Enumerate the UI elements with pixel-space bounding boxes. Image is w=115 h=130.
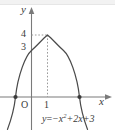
root-point-right bbox=[77, 95, 81, 99]
coordinate-plot bbox=[0, 0, 115, 130]
parabola-figure: y x O 1 3 4 y=−x2+2x+3 bbox=[0, 0, 115, 130]
y-axis-label: y bbox=[21, 4, 26, 15]
equation-label: y=−x2+2x+3 bbox=[42, 114, 94, 124]
y-tick-label-4: 4 bbox=[21, 29, 26, 39]
equation-neg-x-term: −x bbox=[52, 113, 63, 124]
root-point-left bbox=[13, 95, 17, 99]
x-tick-label-1: 1 bbox=[44, 100, 49, 110]
equation-remaining-terms: +2x+3 bbox=[67, 113, 95, 124]
x-axis-label: x bbox=[99, 96, 104, 107]
y-tick-label-3: 3 bbox=[21, 42, 26, 52]
origin-label: O bbox=[21, 100, 28, 110]
y-axis bbox=[29, 7, 35, 130]
